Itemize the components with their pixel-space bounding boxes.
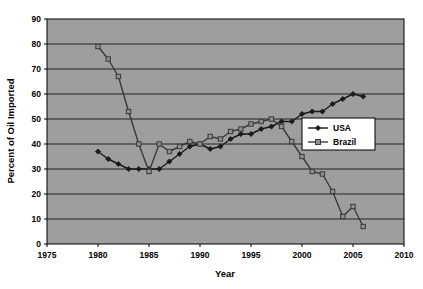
- data-point: [341, 214, 345, 218]
- data-point: [218, 137, 222, 141]
- y-tick-label: 20: [32, 189, 42, 199]
- chart-legend: USABrazil: [302, 118, 375, 150]
- data-point: [126, 109, 130, 113]
- data-point: [279, 124, 283, 128]
- data-point: [330, 189, 334, 193]
- y-tick-label: 10: [32, 214, 42, 224]
- data-point: [177, 144, 181, 148]
- y-tick-label: 40: [32, 139, 42, 149]
- x-tick-label: 1990: [191, 250, 210, 260]
- data-point: [269, 117, 273, 121]
- data-point: [116, 74, 120, 78]
- x-tick-label: 1985: [140, 250, 159, 260]
- x-tick-label: 2010: [395, 250, 414, 260]
- y-tick-label: 60: [32, 89, 42, 99]
- x-tick-label: 2005: [344, 250, 363, 260]
- legend-marker-brazil: [316, 140, 321, 145]
- x-tick-label: 1980: [89, 250, 108, 260]
- data-point: [351, 204, 355, 208]
- data-point: [239, 127, 243, 131]
- oil-import-chart: 0102030405060708090 19751980198519901995…: [0, 0, 423, 289]
- data-point: [167, 149, 171, 153]
- legend-label-usa: USA: [333, 123, 351, 133]
- data-point: [188, 139, 192, 143]
- data-point: [208, 134, 212, 138]
- data-point: [249, 122, 253, 126]
- data-point: [137, 142, 141, 146]
- x-tick-label: 1975: [38, 250, 57, 260]
- y-tick-label: 70: [32, 64, 42, 74]
- data-point: [96, 44, 100, 48]
- data-point: [361, 224, 365, 228]
- data-point: [300, 154, 304, 158]
- data-point: [320, 172, 324, 176]
- y-tick-label: 0: [36, 239, 41, 249]
- x-tick-label: 1995: [242, 250, 261, 260]
- x-axis-title: Year: [215, 268, 235, 279]
- chart-svg: 0102030405060708090 19751980198519901995…: [0, 0, 423, 289]
- data-point: [259, 119, 263, 123]
- y-axis-title: Percent of Oil Imported: [5, 78, 16, 183]
- x-tick-label: 2000: [293, 250, 312, 260]
- y-tick-label: 90: [32, 14, 42, 24]
- data-point: [198, 142, 202, 146]
- data-point: [290, 139, 294, 143]
- data-point: [228, 129, 232, 133]
- legend-label-brazil: Brazil: [333, 137, 356, 147]
- data-point: [157, 142, 161, 146]
- data-point: [106, 57, 110, 61]
- y-tick-label: 50: [32, 114, 42, 124]
- y-tick-label: 80: [32, 39, 42, 49]
- y-tick-label: 30: [32, 164, 42, 174]
- data-point: [310, 169, 314, 173]
- data-point: [147, 169, 151, 173]
